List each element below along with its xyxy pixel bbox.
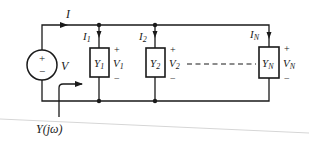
branch-voltage-label: VN (283, 57, 296, 71)
branch-current-arrow-icon (267, 32, 272, 39)
node-dot (97, 99, 101, 103)
branch-voltage-label: V1 (113, 57, 124, 71)
source-voltage-label: V (61, 59, 70, 73)
node-dot (153, 99, 157, 103)
total-current-label: I (65, 7, 71, 21)
voltage-minus: − (114, 73, 120, 84)
branch-current-arrow-icon (153, 31, 158, 38)
node-dot (97, 23, 101, 27)
node-dot (153, 23, 157, 27)
source-plus: + (39, 52, 45, 64)
voltage-plus: + (170, 44, 176, 55)
voltage-plus: + (114, 44, 120, 55)
voltage-source: + − V (27, 50, 70, 80)
current-arrow-icon (60, 22, 68, 28)
branch-1: Y1 I1 + V1 − (82, 23, 124, 103)
branch-current-label: I1 (82, 30, 91, 44)
branch-current-label: I2 (138, 30, 147, 44)
voltage-minus: − (170, 73, 176, 84)
branch-2: Y2 I2 + V2 − (138, 23, 180, 103)
voltage-plus: + (284, 43, 290, 54)
branch-voltage-label: V2 (169, 57, 180, 71)
input-admittance-label: Y(jω) (36, 122, 62, 136)
branch-current-label: IN (249, 28, 260, 42)
circuit-diagram: I + − V Y1 I1 + V1 − Y2 I2 + V2 − (0, 0, 309, 141)
voltage-minus: − (284, 73, 290, 84)
branch-n: YN IN + VN − (249, 28, 296, 84)
source-minus: − (39, 65, 45, 77)
branch-current-arrow-icon (97, 31, 102, 38)
